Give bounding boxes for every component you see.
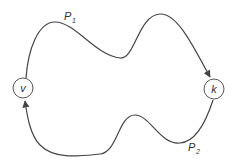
path-diagram: v k P 1 P 2 — [0, 0, 235, 167]
node-k: k — [204, 79, 224, 99]
node-k-label: k — [211, 83, 217, 95]
label-p2-main: P — [188, 141, 196, 153]
label-p2: P 2 — [188, 141, 200, 155]
label-p2-sub: 2 — [195, 148, 200, 155]
node-v: v — [13, 78, 33, 98]
label-p1-sub: 1 — [72, 17, 76, 24]
label-p1: P 1 — [64, 10, 76, 24]
edge-p2 — [25, 100, 213, 156]
label-p1-main: P — [64, 10, 72, 22]
edge-p1 — [26, 14, 210, 78]
